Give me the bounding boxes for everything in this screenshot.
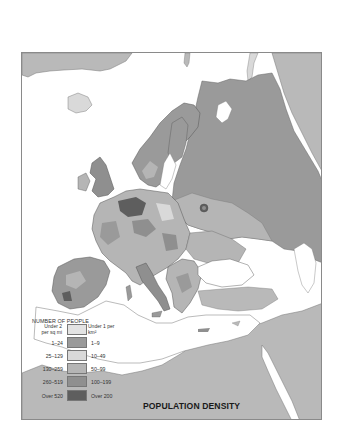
legend-row: 130–259 50–99 — [24, 363, 134, 375]
legend-swatch — [67, 376, 87, 387]
legend-row: 25–129 10–49 — [24, 350, 134, 362]
legend-row-label-sq-mi: Over 520 — [23, 393, 63, 399]
legend-row-label-sq-mi: 260–519 — [23, 379, 63, 385]
legend-swatch — [67, 337, 87, 348]
legend-row-label-km: 100–199 — [91, 379, 111, 385]
legend-row-label-sq-mi: 130–259 — [23, 366, 63, 372]
legend-row-label-km: 10–49 — [91, 353, 105, 359]
legend-row-label-sq-mi: 25–129 — [23, 353, 63, 359]
legend-swatch — [67, 390, 87, 401]
legend-row-label-km: Over 200 — [91, 393, 112, 399]
legend-swatch — [67, 363, 87, 374]
map-title: POPULATION DENSITY — [143, 401, 240, 411]
legend-row: 1–24 1–9 — [24, 337, 134, 349]
legend-swatch — [67, 324, 87, 335]
legend-header-km: Under 1 per km² — [88, 324, 118, 335]
legend-row-label-km: 1–9 — [91, 340, 100, 346]
legend-swatch — [67, 350, 87, 361]
legend-row: 260–519 100–199 — [24, 376, 134, 388]
legend-row-label-sq-mi: 1–24 — [23, 340, 63, 346]
legend-row-label-km: 50–99 — [91, 366, 105, 372]
legend-row: Over 520 Over 200 — [24, 390, 134, 402]
